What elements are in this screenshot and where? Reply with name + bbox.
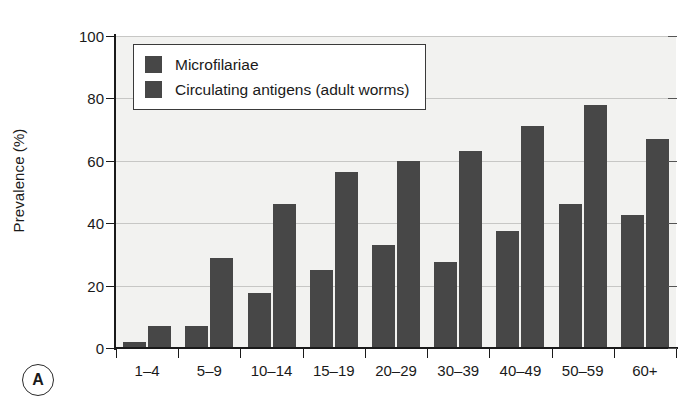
y-axis-title: Prevalence (%) (6, 0, 32, 360)
legend-swatch (145, 56, 162, 73)
bar (397, 161, 420, 348)
x-axis-tick-mark (489, 349, 490, 358)
y-axis-tick-label: 40 (62, 215, 104, 232)
bar-group (489, 36, 551, 348)
x-axis-tick-mark (178, 349, 179, 358)
y-axis-tick-labels: 020406080100 (54, 0, 104, 412)
chart-legend: MicrofilariaeCirculating antigens (adult… (133, 44, 426, 110)
bar (559, 204, 582, 348)
y-axis-tick-mark-right (668, 286, 677, 287)
y-axis-title-text: Prevalence (%) (11, 128, 28, 232)
bar-group (552, 36, 614, 348)
panel-label: A (22, 364, 54, 396)
y-axis-tick-label: 20 (62, 277, 104, 294)
bar (335, 172, 358, 348)
bar-group (427, 36, 489, 348)
y-axis-tick-label: 100 (62, 28, 104, 45)
y-axis-tick-mark-right (668, 98, 677, 99)
x-axis-tick-mark (614, 349, 615, 358)
x-axis-tick-mark (240, 349, 241, 358)
y-axis-tick-label: 0 (62, 340, 104, 357)
y-axis-tick-mark-right (668, 36, 677, 37)
bar (521, 126, 544, 348)
y-axis-tick-mark (106, 223, 115, 224)
bar-group (614, 36, 676, 348)
x-axis-tick-mark (303, 349, 304, 358)
legend-label: Microfilariae (175, 56, 259, 74)
y-axis-tick-mark (106, 161, 115, 162)
x-axis-tick-mark (365, 349, 366, 358)
bar (248, 293, 271, 348)
bar (459, 151, 482, 348)
y-axis-tick-label: 60 (62, 152, 104, 169)
y-axis-tick-mark (106, 286, 115, 287)
bar (621, 215, 644, 348)
legend-swatch (145, 81, 162, 98)
y-axis-tick-mark (106, 98, 115, 99)
bar (185, 326, 208, 348)
bar (148, 326, 171, 348)
y-axis-tick-mark (106, 36, 115, 37)
bar (372, 245, 395, 348)
bar (434, 262, 457, 348)
bar (273, 204, 296, 348)
legend-label: Circulating antigens (adult worms) (175, 81, 409, 99)
x-axis-line (114, 347, 678, 349)
legend-item: Circulating antigens (adult worms) (145, 77, 409, 102)
y-axis-tick-mark-right (668, 223, 677, 224)
x-axis-tick-label: 60+ (602, 362, 688, 379)
x-axis-tick-mark (427, 349, 428, 358)
bar (584, 105, 607, 348)
y-axis-tick-mark (106, 348, 115, 349)
bar (310, 270, 333, 348)
x-axis-tick-mark (676, 349, 677, 358)
legend-item: Microfilariae (145, 52, 409, 77)
bar (210, 258, 233, 348)
y-axis-line (114, 34, 116, 350)
bar (496, 231, 519, 348)
x-axis-tick-mark (552, 349, 553, 358)
y-axis-tick-mark-right (668, 161, 677, 162)
x-axis-tick-mark (116, 349, 117, 358)
y-axis-tick-label: 80 (62, 90, 104, 107)
bar (646, 139, 669, 348)
chart-figure: Prevalence (%) 020406080100 Microfilaria… (0, 0, 700, 412)
